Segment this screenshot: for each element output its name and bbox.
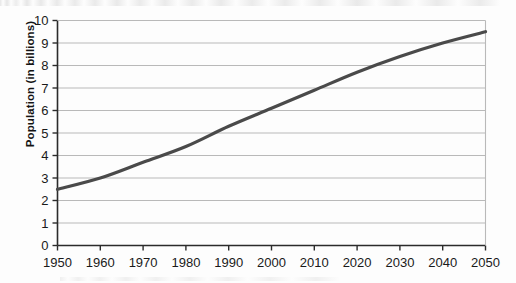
y-tick-label: 7: [41, 81, 48, 96]
x-tick-label: 2040: [428, 255, 457, 270]
y-tick-label: 5: [41, 126, 48, 141]
x-tick-label: 1950: [43, 255, 72, 270]
x-tick-label: 2050: [471, 255, 500, 270]
y-tick-label: 9: [41, 36, 48, 51]
chart-svg: 012345678910 195019601970198019902000201…: [0, 0, 516, 283]
y-tick-label: 4: [41, 148, 48, 163]
y-tick-label: 0: [41, 238, 48, 253]
x-tick-label: 2000: [257, 255, 286, 270]
x-tick-label: 1990: [214, 255, 243, 270]
y-tick-group: 012345678910: [34, 13, 57, 253]
y-tick-label: 6: [41, 103, 48, 118]
x-tick-label: 1980: [171, 255, 200, 270]
x-tick-label: 1970: [129, 255, 158, 270]
y-axis-title: Population (in billions): [24, 0, 36, 169]
y-tick-label: 1: [41, 216, 48, 231]
y-tick-label: 2: [41, 193, 48, 208]
population-line-chart: Population (in billions) 012345678910 19…: [0, 0, 516, 283]
x-tick-label: 2010: [300, 255, 329, 270]
y-tick-label: 8: [41, 58, 48, 73]
x-tick-group: 1950196019701980199020002010202020302040…: [43, 246, 500, 270]
y-tick-label: 10: [34, 13, 48, 28]
y-tick-label: 3: [41, 171, 48, 186]
x-tick-label: 2030: [385, 255, 414, 270]
x-tick-label: 1960: [86, 255, 115, 270]
x-tick-label: 2020: [343, 255, 372, 270]
gridlines-group: [58, 43, 486, 223]
